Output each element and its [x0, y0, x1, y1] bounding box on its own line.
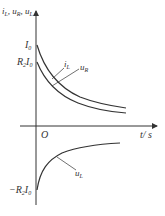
tick-label-neg-R2I0: −R2I0	[9, 184, 31, 196]
label-iL: iL	[64, 59, 71, 70]
rl-transient-diagram: iL, uR, uL I0 R2I0 −R2I0 O t/ s iL uR uL	[0, 0, 165, 216]
leader-uR	[52, 69, 79, 86]
leader-uL	[57, 157, 76, 170]
label-uL: uL	[75, 168, 84, 179]
label-uR: uR	[80, 62, 89, 73]
tick-label-R2I0: R2I0	[16, 56, 32, 68]
curve-iL	[37, 45, 126, 108]
tick-label-I0: I0	[24, 39, 31, 51]
curve-uL	[37, 143, 120, 190]
leader-iL	[52, 68, 64, 79]
origin-label: O	[41, 129, 48, 140]
x-axis-label: t/ s	[140, 129, 152, 140]
y-axis-label: iL, uR, uL	[2, 6, 34, 17]
